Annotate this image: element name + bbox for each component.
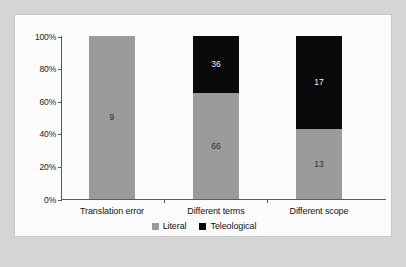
plot-area: 9 36 66 17 13 [62, 36, 381, 199]
x-tick-mark [164, 199, 165, 203]
bar-group-translation-error[interactable]: 9 [89, 36, 135, 199]
bar-segment-value: 17 [314, 78, 324, 87]
y-tick-100: 100% [15, 36, 62, 37]
legend-item-literal[interactable]: Literal [152, 221, 187, 231]
y-tick-label: 40% [40, 129, 56, 139]
y-tick-label: 60% [40, 97, 56, 107]
chart-canvas: 100% 80% 60% 40% 20% 0% [14, 14, 392, 237]
x-axis-label-different-terms: Different terms [156, 206, 276, 216]
y-tick-0: 0% [15, 199, 62, 200]
legend-swatch-icon [199, 223, 206, 230]
bar-segment-teleological[interactable]: 36 [193, 36, 239, 93]
bar-segment-value: 66 [211, 142, 221, 151]
bar-segment-literal[interactable]: 9 [89, 36, 135, 199]
bar-segment-value: 9 [110, 113, 115, 122]
bar-segment-value: 13 [314, 160, 324, 169]
x-axis-line [61, 199, 386, 200]
legend-swatch-icon [152, 223, 159, 230]
legend-label: Teleological [210, 221, 256, 231]
chart-legend: Literal Teleological [15, 221, 393, 231]
bar-segment-value: 36 [211, 60, 221, 69]
legend-label: Literal [163, 221, 187, 231]
y-tick-20: 20% [15, 166, 62, 167]
y-tick-label: 0% [44, 195, 56, 205]
y-tick-label: 20% [40, 162, 56, 172]
bar-segment-literal[interactable]: 13 [296, 129, 342, 199]
x-axis-label-different-scope: Different scope [259, 206, 379, 216]
x-tick-mark [267, 199, 268, 203]
y-tick-60: 60% [15, 101, 62, 102]
bar-segment-teleological[interactable]: 17 [296, 36, 342, 129]
bar-group-different-scope[interactable]: 17 13 [296, 36, 342, 199]
figure-frame: 100% 80% 60% 40% 20% 0% [0, 0, 406, 267]
legend-item-teleological[interactable]: Teleological [199, 221, 256, 231]
x-axis-label-translation-error: Translation error [52, 206, 172, 216]
y-tick-mark [58, 200, 62, 201]
bar-group-different-terms[interactable]: 36 66 [193, 36, 239, 199]
x-axis-category-labels: Translation error Different terms Differ… [62, 206, 381, 222]
y-tick-label: 80% [40, 64, 56, 74]
y-tick-label: 100% [35, 32, 56, 42]
y-tick-40: 40% [15, 134, 62, 135]
bar-segment-literal[interactable]: 66 [193, 93, 239, 199]
y-tick-80: 80% [15, 69, 62, 70]
